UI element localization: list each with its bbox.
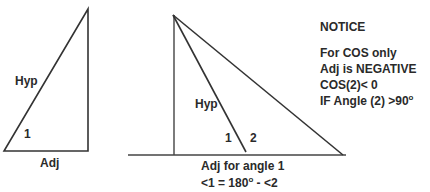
adj-for-angle-1-label: Adj for angle 1 <box>201 160 284 172</box>
long-hypotenuse <box>173 15 343 155</box>
notice-line-angle-condition: IF Angle (2) >90o <box>320 95 416 107</box>
formula-prefix: <1 = 180 <box>201 176 248 190</box>
notice-title: NOTICE <box>320 21 416 33</box>
angle-1-label: 1 <box>225 132 232 144</box>
degree-symbol: o <box>248 175 253 184</box>
degree-symbol: o <box>409 93 414 102</box>
right-hyp-label: Hyp <box>195 98 218 110</box>
angle-condition-text: IF Angle (2) >90 <box>320 94 409 108</box>
notice-line-cos-only: For COS only <box>320 47 416 59</box>
left-hyp-label: Hyp <box>15 75 38 87</box>
angle-relation-formula: <1 = 180o - <2 <box>201 177 278 189</box>
notice-line-cos-negative: COS(2)< 0 <box>320 79 416 91</box>
formula-suffix: - <2 <box>253 176 277 190</box>
angle-2-label: 2 <box>250 132 257 144</box>
notice-line-adj-negative: Adj is NEGATIVE <box>320 63 416 75</box>
left-angle-1-label: 1 <box>24 128 31 140</box>
left-adj-label: Adj <box>40 157 59 169</box>
notice-box: NOTICE For COS only Adj is NEGATIVE COS(… <box>320 21 416 111</box>
hypotenuse-angle-1 <box>173 15 246 152</box>
